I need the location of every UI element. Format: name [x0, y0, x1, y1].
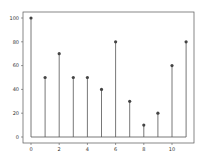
x-axis: 0246810: [29, 143, 175, 152]
stem-marker: [142, 124, 145, 127]
x-tick-label: 0: [29, 146, 32, 152]
stem-marker: [72, 76, 75, 79]
y-tick-label: 100: [9, 15, 19, 21]
x-tick-label: 8: [142, 146, 145, 152]
y-tick-label: 80: [13, 39, 19, 45]
stem-marker: [185, 40, 188, 43]
x-tick-label: 6: [114, 146, 117, 152]
x-tick-label: 2: [58, 146, 61, 152]
stem-marker: [44, 76, 47, 79]
y-axis: 020406080100: [9, 15, 23, 140]
stem-marker: [156, 112, 159, 115]
stem-marker: [128, 100, 131, 103]
y-tick-label: 0: [16, 134, 19, 140]
stem-chart: 020406080100 0246810: [0, 0, 207, 163]
stem-marker: [29, 16, 32, 19]
stems: [29, 16, 187, 137]
stem-marker: [58, 52, 61, 55]
stem-marker: [170, 64, 173, 67]
y-tick-label: 40: [13, 86, 19, 92]
stem-marker: [100, 88, 103, 91]
x-tick-label: 4: [86, 146, 89, 152]
y-tick-label: 60: [13, 62, 19, 68]
plot-frame: [23, 12, 194, 143]
x-tick-label: 10: [169, 146, 175, 152]
stem-marker: [114, 40, 117, 43]
y-tick-label: 20: [13, 110, 19, 116]
stem-marker: [86, 76, 89, 79]
